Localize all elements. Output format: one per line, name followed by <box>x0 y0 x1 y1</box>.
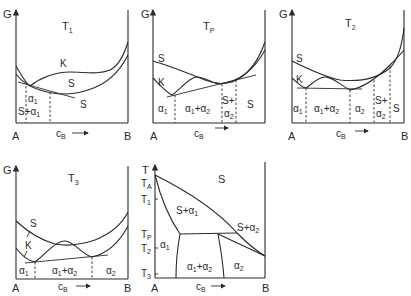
phase-diagram: T TA T1 TP T2 T3 S S+α1 S+α2 α1 α1+α2 α2… <box>141 162 269 294</box>
cb-label: cB <box>194 128 204 140</box>
component-a: A <box>150 130 158 142</box>
g-label: G <box>3 164 12 176</box>
region-alpha2: α2 <box>106 265 116 277</box>
region-alpha2: α2 <box>355 103 365 115</box>
component-a: A <box>288 130 296 142</box>
tick-t2: T2 <box>141 243 151 255</box>
k-leader <box>24 251 27 257</box>
region-s-alpha2: S+α2 <box>237 222 259 234</box>
k-curve <box>153 50 265 95</box>
s-curve-label: S <box>68 78 75 89</box>
tick-t3: T3 <box>141 268 151 280</box>
region-alpha1: α1 <box>19 265 29 277</box>
component-b: B <box>124 130 131 142</box>
region-s-alpha1: S+α1 <box>18 106 40 118</box>
component-b: B <box>401 130 408 142</box>
s-curve-label: S <box>296 53 303 64</box>
region-alpha2: α2 <box>234 260 244 272</box>
s-curve <box>292 28 404 81</box>
g-label: G <box>3 8 12 20</box>
t-label: T <box>142 164 149 176</box>
panel-tp: G TP S K α1 α1+α2 S+ α2 S A cB <box>141 8 265 142</box>
g-label: G <box>141 8 150 20</box>
k-label: K <box>158 77 165 88</box>
temp-label: T3 <box>68 172 79 186</box>
region-alpha1: α1 <box>158 103 168 115</box>
common-tangent <box>18 82 75 98</box>
k-label: K <box>60 58 67 69</box>
g-label: G <box>279 8 288 20</box>
component-b: B <box>124 282 131 294</box>
s-leader <box>27 231 30 237</box>
region-s-alpha1: S+α1 <box>176 205 198 217</box>
common-tangent <box>297 88 362 89</box>
region-alpha2-b: α2 <box>376 108 386 120</box>
tick-ta: TA <box>141 178 152 190</box>
tick-tp: TP <box>141 229 152 241</box>
region-s: S <box>80 99 87 110</box>
component-a: A <box>12 282 20 294</box>
cb-label: cB <box>336 128 346 140</box>
region-s-plus: S+ <box>222 95 235 106</box>
region-alpha2: α2 <box>224 108 234 120</box>
region-alpha1: α1 <box>160 239 170 251</box>
temp-label: T2 <box>345 17 356 31</box>
panel-t2: G T2 S K α1 α1+α2 α2 S+ α2 S A B cB <box>279 8 408 142</box>
common-tangent <box>167 75 256 97</box>
tick-t1: T1 <box>141 194 151 206</box>
temp-label: T1 <box>62 20 73 34</box>
cb-label: cB <box>58 281 68 293</box>
common-tangent <box>25 255 108 263</box>
liquidus-line <box>155 175 265 256</box>
cb-label: cB <box>56 128 66 140</box>
region-s: S <box>393 103 400 114</box>
panel-t1: G T1 K S α1 S+α1 S A B cB <box>3 8 131 142</box>
region-alpha1-alpha2: α1+α2 <box>187 261 212 273</box>
region-alpha1: α1 <box>293 103 303 115</box>
panel-t3: G T3 S K α1 α1+α2 α2 A B cB <box>3 164 131 294</box>
peritectic-line <box>180 233 237 234</box>
component-b: B <box>262 282 269 294</box>
temp-label: TP <box>203 20 215 34</box>
s-curve-label: S <box>158 53 165 64</box>
k-label: K <box>25 240 32 251</box>
k-label: K <box>296 74 303 85</box>
solvus-alpha2 <box>218 234 224 278</box>
gibbs-energy-phase-diagram-figure: G T1 K S α1 S+α1 S A B cB G TP S <box>0 0 411 296</box>
component-a: A <box>151 282 159 294</box>
solvus-alpha1 <box>176 234 180 278</box>
region-s: S <box>218 173 225 185</box>
region-alpha1-alpha2: α1+α2 <box>185 103 210 115</box>
s-curve-label: S <box>30 218 37 229</box>
region-alpha1-alpha2: α1+α2 <box>52 265 77 277</box>
region-alpha1: α1 <box>28 93 38 105</box>
cb-label: cB <box>196 281 206 293</box>
region-alpha1-alpha2: α1+α2 <box>314 103 339 115</box>
component-a: A <box>12 130 20 142</box>
region-s: S <box>247 99 254 110</box>
region-s-plus: S+ <box>375 95 388 106</box>
